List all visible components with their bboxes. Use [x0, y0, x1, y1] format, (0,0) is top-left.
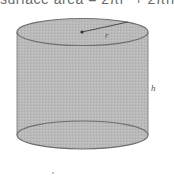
radius-label: r [105, 30, 109, 40]
stray-mark [52, 172, 54, 174]
cylinder-diagram: r h [0, 0, 174, 179]
bottom-base [17, 121, 148, 149]
height-label: h [151, 83, 156, 93]
center-point [80, 30, 83, 33]
